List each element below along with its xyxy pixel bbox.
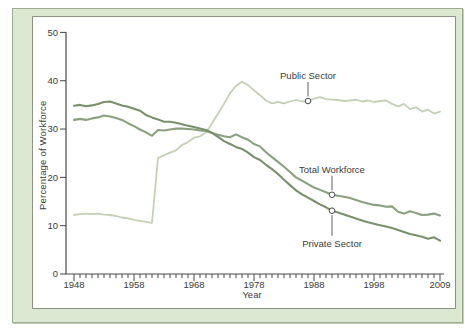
public-sector-label: Public Sector bbox=[280, 70, 336, 81]
axes bbox=[66, 32, 444, 274]
total-sector-line bbox=[74, 116, 440, 216]
x-tick-label: 1958 bbox=[123, 279, 144, 290]
total-marker bbox=[329, 192, 335, 198]
x-tick-label: 1948 bbox=[63, 279, 84, 290]
private-sector-label: Private Sector bbox=[302, 237, 362, 248]
total-workforce-label: Total Workforce bbox=[299, 163, 365, 174]
chart-canvas: 194819581968197819881998200901020304050 bbox=[0, 0, 465, 328]
x-tick-label: 1988 bbox=[303, 279, 324, 290]
x-tick-label: 1998 bbox=[363, 279, 384, 290]
x-tick-label: 2009 bbox=[429, 279, 450, 290]
y-tick-label: 10 bbox=[47, 220, 58, 231]
y-tick-label: 50 bbox=[47, 27, 58, 38]
private-marker bbox=[329, 208, 335, 214]
x-tick-label: 1968 bbox=[183, 279, 204, 290]
y-tick-label: 40 bbox=[47, 75, 58, 86]
x-axis-title: Year bbox=[242, 289, 261, 300]
public-marker bbox=[305, 98, 311, 104]
y-tick-label: 0 bbox=[53, 268, 58, 279]
y-axis-title: Percentage of Workforce bbox=[37, 90, 50, 220]
public-sector-line bbox=[74, 82, 440, 223]
private-sector-line bbox=[74, 102, 440, 241]
